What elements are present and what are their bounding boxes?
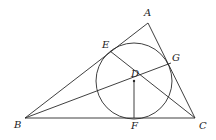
label-f: F [130, 120, 139, 131]
segment-ec [110, 51, 195, 118]
label-c: C [199, 120, 207, 131]
interior-segments [25, 51, 195, 118]
point-labels: A B C D E F G [13, 7, 207, 131]
segment-bg [25, 63, 171, 118]
label-d: D [130, 68, 139, 79]
triangle-abc [25, 23, 195, 118]
label-b: B [13, 119, 21, 130]
label-g: G [172, 52, 180, 63]
label-a: A [143, 7, 151, 18]
center-point-d [133, 80, 135, 82]
side-ca [148, 23, 195, 118]
side-ab [25, 23, 148, 118]
label-e: E [101, 39, 110, 50]
geometry-diagram: A B C D E F G [0, 0, 216, 140]
